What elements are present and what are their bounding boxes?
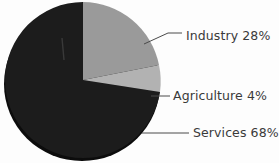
pie-chart-figure: Industry 28% Agriculture 4% Services 68%: [0, 0, 279, 163]
pie-label-agriculture: Agriculture 4%: [173, 90, 267, 103]
pie-label-industry: Industry 28%: [186, 30, 270, 43]
pie-label-services: Services 68%: [193, 127, 279, 140]
